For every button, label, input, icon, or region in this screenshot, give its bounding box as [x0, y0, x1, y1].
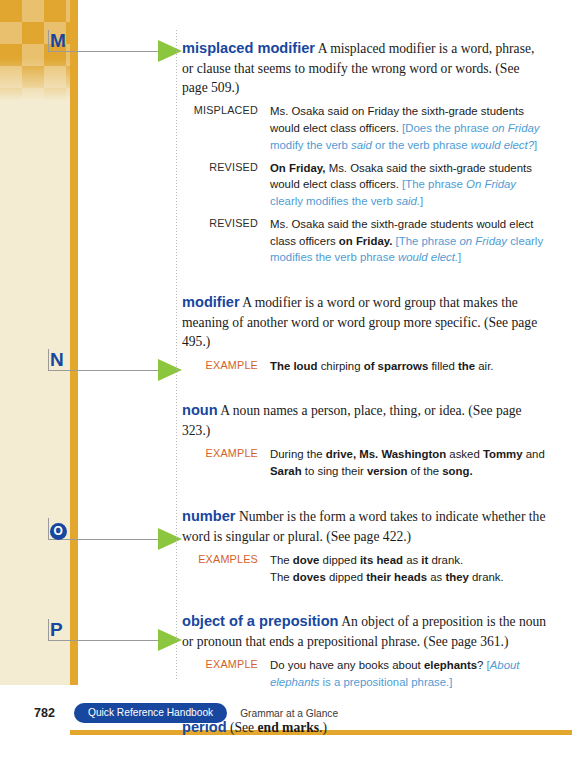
tab-rule-horizontal	[48, 51, 166, 52]
entry-headword: modifier	[182, 294, 240, 310]
entry-definition-text: Number is the form a word takes to indic…	[182, 509, 545, 544]
example-text: The dove dipped its head as it drank. Th…	[270, 552, 548, 586]
example-label: EXAMPLE	[182, 358, 270, 375]
entry-example: EXAMPLE The loud chirping of sparrows fi…	[182, 358, 548, 375]
example-line: The doves dipped their heads as they dra…	[270, 569, 548, 586]
example-note: [About elephants is a prepositional phra…	[270, 659, 520, 688]
glossary-column: misplaced modifier A misplaced modifier …	[182, 0, 572, 777]
letter-tab-label: M	[50, 31, 66, 50]
entry-example: REVISED On Friday, Ms. Osaka said the si…	[182, 160, 548, 210]
example-text: Do you have any books about elephants? […	[270, 657, 548, 691]
example-line: The dove dipped its head as it drank.	[270, 552, 548, 569]
glossary-entry: object of a preposition An object of a p…	[182, 611, 572, 691]
example-label: EXAMPLE	[182, 657, 270, 691]
entry-example: EXAMPLES The dove dipped its head as it …	[182, 552, 548, 586]
entry-definition: object of a preposition An object of a p…	[182, 611, 548, 651]
column-divider	[176, 30, 177, 679]
letter-tab-m: M	[48, 34, 182, 68]
entry-example: EXAMPLE During the drive, Ms. Washington…	[182, 446, 548, 480]
green-arrow-icon	[158, 528, 182, 550]
tab-rule-horizontal	[48, 640, 166, 641]
letter-tab-o: O	[48, 522, 182, 556]
example-text: The loud chirping of sparrows filled the…	[270, 358, 548, 375]
letter-tab-label: O	[50, 523, 67, 540]
glossary-entry: modifier A modifier is a word or word gr…	[182, 292, 572, 374]
tab-rule-vertical	[48, 518, 49, 540]
example-label: REVISED	[182, 160, 270, 210]
entry-definition: misplaced modifier A misplaced modifier …	[182, 38, 548, 97]
glossary-entry: misplaced modifier A misplaced modifier …	[182, 38, 572, 266]
entry-example: MISPLACED Ms. Osaka said on Friday the s…	[182, 103, 548, 153]
entry-example: EXAMPLE Do you have any books about elep…	[182, 657, 548, 691]
example-note: [Does the phrase on Friday modify the ve…	[270, 122, 540, 151]
example-label: EXAMPLE	[182, 446, 270, 480]
entry-headword: misplaced modifier	[182, 40, 315, 56]
tab-rule-vertical	[48, 30, 49, 52]
example-text: On Friday, Ms. Osaka said the sixth-grad…	[270, 160, 548, 210]
entry-example: REVISED Ms. Osaka said the sixth-grade s…	[182, 216, 548, 266]
entry-definition-text: A noun names a person, place, thing, or …	[182, 403, 522, 438]
page-footer: 782 Quick Reference Handbook Grammar at …	[182, 703, 338, 723]
letter-tab-n: N	[48, 353, 182, 387]
letter-tab-label: P	[50, 620, 63, 639]
green-arrow-icon	[158, 40, 182, 62]
example-text: Ms. Osaka said the sixth-grade students …	[270, 216, 548, 266]
entry-headword: number	[182, 508, 236, 524]
example-label: EXAMPLES	[182, 552, 270, 586]
example-text: Ms. Osaka said on Friday the sixth-grade…	[270, 103, 548, 153]
example-label: REVISED	[182, 216, 270, 266]
entry-definition: number Number is the form a word takes t…	[182, 506, 548, 546]
example-note: [The phrase on Friday clearly modifies t…	[270, 235, 543, 264]
letter-tab-p: P	[48, 623, 182, 657]
letter-tab-label: N	[50, 350, 64, 369]
entry-definition: modifier A modifier is a word or word gr…	[182, 292, 548, 351]
running-head-badge: Quick Reference Handbook	[74, 703, 227, 723]
entry-headword: noun	[182, 402, 218, 418]
example-text: During the drive, Ms. Washington asked T…	[270, 446, 548, 480]
glossary-entry: noun A noun names a person, place, thing…	[182, 400, 572, 480]
tab-rule-vertical	[48, 349, 49, 371]
green-arrow-icon	[158, 629, 182, 651]
entry-headword: object of a preposition	[182, 613, 338, 629]
example-note: [The phrase On Friday clearly modifies t…	[270, 178, 516, 207]
running-head-subtitle: Grammar at a Glance	[240, 708, 338, 719]
green-arrow-icon	[158, 359, 182, 381]
example-label: MISPLACED	[182, 103, 270, 153]
letter-tab-gutter: M N O P	[0, 0, 182, 777]
page-number: 782	[34, 706, 74, 720]
tab-rule-vertical	[48, 619, 49, 641]
tab-rule-horizontal	[48, 370, 166, 371]
glossary-entry: number Number is the form a word takes t…	[182, 506, 572, 586]
entry-definition: noun A noun names a person, place, thing…	[182, 400, 548, 440]
tab-rule-horizontal	[48, 539, 166, 540]
